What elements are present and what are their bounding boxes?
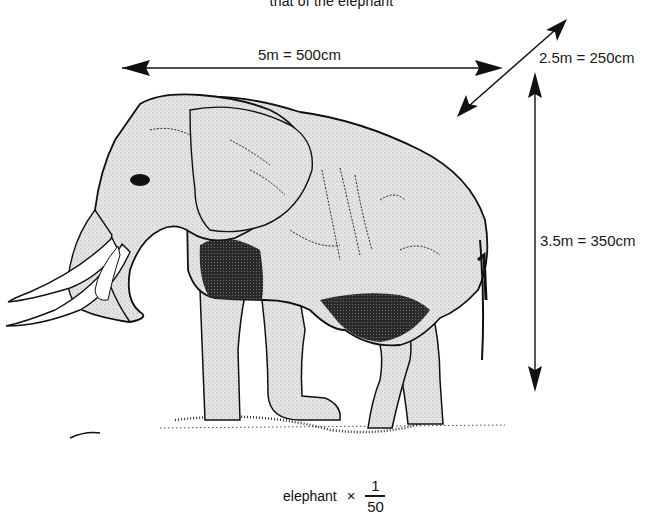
scale-subject-label: elephant — [283, 488, 337, 504]
scale-denominator: 50 — [367, 497, 384, 514]
length-dimension-label: 5m = 500cm — [258, 46, 341, 63]
scale-caption: elephant × 1 50 — [283, 478, 385, 514]
scale-fraction: 1 50 — [365, 478, 385, 514]
elephant-illustration-icon — [6, 94, 505, 438]
height-dimension-label: 3.5m = 350cm — [540, 232, 635, 249]
multiply-operator: × — [347, 487, 356, 504]
diagram-canvas — [0, 0, 663, 517]
width-dimension-label: 2.5m = 250cm — [539, 49, 634, 66]
scale-numerator: 1 — [371, 478, 379, 495]
